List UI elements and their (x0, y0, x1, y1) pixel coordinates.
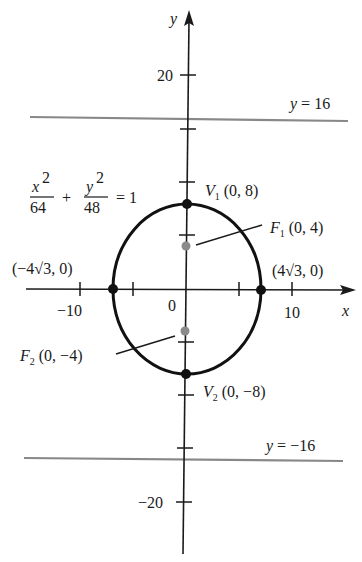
origin-label: 0 (168, 297, 176, 314)
directrix-line-top (30, 117, 348, 121)
svg-text:y: y (84, 178, 94, 196)
svg-text:48: 48 (84, 199, 100, 216)
focus-f1-label: F1 (0, 4) (269, 219, 323, 239)
svg-text:2: 2 (96, 169, 104, 186)
vertex-v2-label: V2 (0, −8) (203, 383, 265, 403)
svg-text:64: 64 (30, 199, 46, 216)
svg-text:2: 2 (42, 169, 50, 186)
focus-f2-label: F2 (0, −4) (19, 347, 82, 367)
vertex-v1-point (182, 199, 192, 209)
svg-text:x: x (31, 178, 39, 195)
tick-label-10: 10 (284, 304, 300, 321)
right-vertex-label: (4√3, 0) (272, 262, 323, 280)
svg-text:+: + (62, 189, 71, 206)
vertex-v2-point (181, 369, 191, 379)
svg-text:= 1: = 1 (116, 189, 137, 206)
x-axis-label: x (341, 302, 349, 319)
ellipse-equation: x 2 64 + y 2 48 = 1 (30, 169, 137, 216)
y-axis (183, 20, 189, 554)
left-vertex-point (108, 284, 118, 294)
f2-leader-line (116, 336, 175, 354)
left-vertex-label: (−4√3, 0) (12, 260, 72, 278)
tick-label-minus10: −10 (57, 302, 82, 319)
directrix-label-bottom: y = −16 (264, 437, 315, 455)
vertex-v1-label: V1 (0, 8) (205, 182, 258, 202)
focus-f1-point (182, 242, 191, 251)
focus-f2-point (181, 327, 190, 336)
y-axis-label: y (168, 10, 178, 28)
tick-label-20: 20 (157, 67, 173, 84)
x-axis (26, 289, 348, 290)
right-vertex-point (256, 285, 266, 295)
tick-label-minus20: −20 (138, 494, 163, 511)
directrix-label-top: y = 16 (288, 95, 330, 113)
f1-leader-line (196, 225, 262, 245)
ellipse-diagram: y x 20 −20 −10 0 10 y = 16 y = −16 x 2 6… (0, 0, 362, 562)
